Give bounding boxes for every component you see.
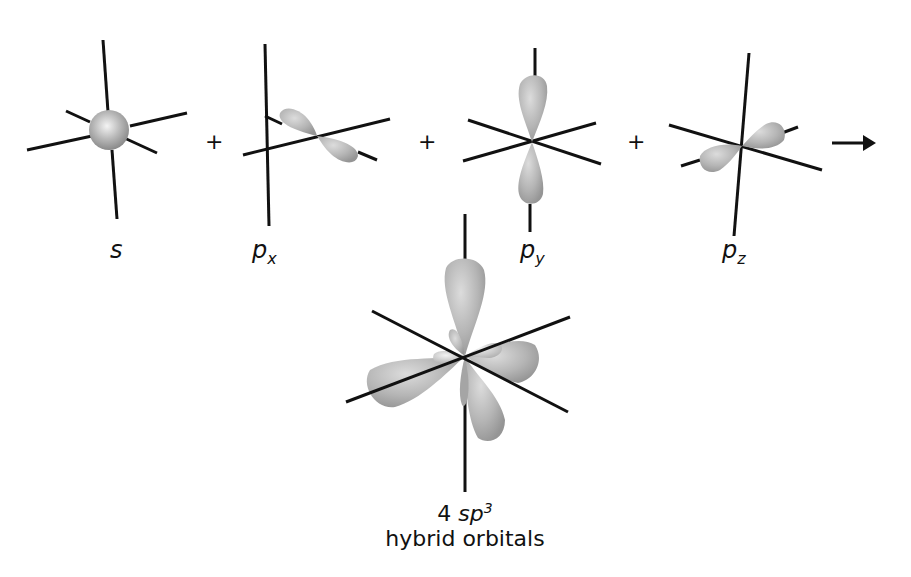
hybrid-caption-line2: hybrid orbitals (380, 526, 550, 551)
label-py: py (520, 238, 545, 267)
plus-operator-2: + (418, 131, 436, 153)
hybrid-caption: 4 sp3 hybrid orbitals (380, 496, 550, 551)
py-orbital (463, 48, 601, 232)
pz-orbital (669, 53, 822, 236)
arrow-icon (832, 135, 876, 151)
label-s: s (110, 238, 123, 262)
label-pz: pz (722, 238, 746, 267)
label-px: px (252, 238, 277, 267)
plus-operator-1: + (205, 131, 223, 153)
diagram-canvas (0, 0, 911, 577)
plus-operator-3: + (627, 131, 645, 153)
px-orbital (243, 44, 390, 226)
hybrid-caption-line1: 4 sp3 (380, 496, 550, 526)
s-orbital (27, 40, 187, 219)
